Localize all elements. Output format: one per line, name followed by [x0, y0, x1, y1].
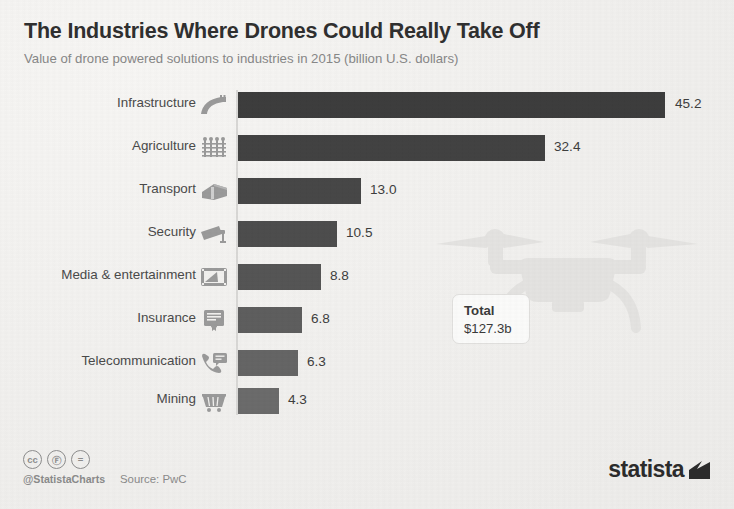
creative-commons-icons: cc Ⓕ =	[23, 450, 90, 469]
bar-label: Insurance	[0, 310, 196, 325]
source-note: Source: PwC	[120, 473, 186, 485]
cctv-camera-icon	[199, 222, 229, 246]
bar-value: 13.0	[370, 182, 396, 197]
bar	[238, 264, 321, 290]
bar-label: Transport	[0, 181, 196, 196]
bar-value: 6.8	[311, 311, 330, 326]
bar-value: 4.3	[288, 392, 307, 407]
cc-icon: cc	[23, 450, 42, 469]
road-icon	[199, 93, 229, 117]
total-callout: Total $127.3b	[452, 294, 530, 344]
statista-handle: @StatistaCharts	[23, 473, 105, 485]
bar-label: Mining	[0, 391, 196, 406]
bar-row: Transport 13.0	[0, 178, 734, 204]
bar	[238, 388, 279, 414]
certificate-icon	[199, 308, 229, 332]
bar-row: Insurance 6.8	[0, 307, 734, 333]
statista-logo: statista	[608, 458, 710, 481]
statista-logo-text: statista	[608, 458, 684, 481]
total-value: $127.3b	[464, 320, 529, 338]
phone-message-icon	[199, 351, 229, 375]
bar-label: Agriculture	[0, 138, 196, 153]
film-frame-icon	[199, 265, 229, 289]
bar-label: Telecommunication	[0, 353, 196, 368]
bar-value: 32.4	[554, 139, 580, 154]
bar-value: 45.2	[675, 96, 701, 111]
bar	[238, 350, 298, 376]
mine-cart-icon	[199, 389, 229, 413]
bar	[238, 92, 665, 118]
crops-icon	[199, 136, 229, 160]
bar-row: Security 10.5	[0, 221, 734, 247]
total-label: Total	[464, 302, 529, 320]
package-icon	[199, 179, 229, 203]
bar-value: 8.8	[330, 268, 349, 283]
statista-logo-mark-icon	[689, 461, 710, 479]
bar-label: Infrastructure	[0, 95, 196, 110]
bar-value: 10.5	[346, 225, 372, 240]
bar-chart: Infrastructure 45.2 Agriculture	[0, 0, 734, 460]
bar-row: Telecommunication 6.3	[0, 350, 734, 376]
bar-row: Infrastructure 45.2	[0, 92, 734, 118]
bar	[238, 307, 302, 333]
chart-page: The Industries Where Drones Could Really…	[0, 0, 734, 509]
bar	[238, 221, 337, 247]
bar	[238, 135, 545, 161]
bar	[238, 178, 361, 204]
bar-row: Media & entertainment 8.8	[0, 264, 734, 290]
bar-value: 6.3	[307, 354, 326, 369]
bar-label: Media & entertainment	[0, 267, 196, 282]
cc-by-icon: Ⓕ	[47, 450, 66, 469]
bar-row: Agriculture 32.4	[0, 135, 734, 161]
bar-row: Mining 4.3	[0, 388, 734, 414]
cc-nd-icon: =	[71, 450, 90, 469]
bar-label: Security	[0, 224, 196, 239]
